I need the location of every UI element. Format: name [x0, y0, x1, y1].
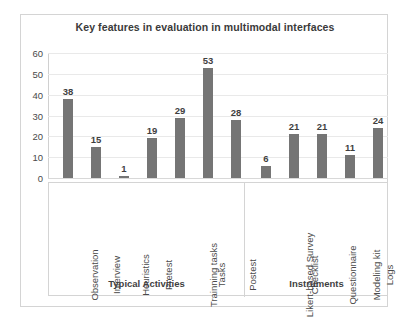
- bar[interactable]: [91, 147, 101, 178]
- gridline: [48, 178, 388, 179]
- group-caption-instruments: Instruments: [245, 278, 388, 289]
- y-axis-tick-label: 40: [32, 89, 43, 100]
- gridline: [48, 74, 388, 75]
- bar-value-label: 21: [308, 121, 336, 132]
- category-slot: Postest: [223, 183, 251, 275]
- y-axis-tick-label: 60: [32, 48, 43, 59]
- category-slot: Heuristics: [111, 183, 139, 275]
- bar-value-label: 29: [166, 105, 194, 116]
- gridline: [48, 116, 388, 117]
- category-slot: Checklist: [281, 183, 309, 275]
- bar[interactable]: [147, 138, 157, 178]
- category-slot: Pretest: [139, 183, 167, 275]
- chart-title: Key features in evaluation in multimodal…: [21, 21, 389, 33]
- category-slot: Modeling kit: [337, 183, 365, 275]
- category-slot: Likert-based Survey: [253, 183, 281, 275]
- category-slot: Trainning tasks: [167, 183, 195, 275]
- bar-value-label: 28: [222, 107, 250, 118]
- bar[interactable]: [345, 155, 355, 178]
- bar[interactable]: [317, 134, 327, 178]
- group-caption-typical-activities: Typical Activities: [49, 278, 244, 289]
- bar-value-label: 53: [194, 55, 222, 66]
- bar[interactable]: [119, 176, 129, 178]
- bar[interactable]: [63, 99, 73, 178]
- bar-value-label: 1: [110, 163, 138, 174]
- y-axis-tick-label: 50: [32, 68, 43, 79]
- plot-area: 0102030405060 3815119295328621211124: [48, 53, 388, 178]
- category-slot: Interview: [83, 183, 111, 275]
- bar[interactable]: [231, 120, 241, 178]
- y-axis-tick-label: 10: [32, 152, 43, 163]
- bar-value-label: 19: [138, 125, 166, 136]
- bar-value-label: 6: [252, 153, 280, 164]
- category-slot: Logs: [365, 183, 393, 275]
- bar[interactable]: [261, 166, 271, 179]
- bar-value-label: 11: [336, 142, 364, 153]
- bar-value-label: 24: [364, 115, 392, 126]
- y-axis-tick-label: 0: [38, 173, 43, 184]
- bar-value-label: 38: [54, 86, 82, 97]
- gridline: [48, 95, 388, 96]
- bar[interactable]: [289, 134, 299, 178]
- category-slot: Observation: [55, 183, 83, 275]
- y-axis-tick-label: 30: [32, 110, 43, 121]
- bar-value-label: 15: [82, 134, 110, 145]
- category-axis-box: ObservationInterviewHeuristicsPretestTra…: [48, 182, 388, 296]
- chart-container: Key features in evaluation in multimodal…: [20, 14, 388, 307]
- bar[interactable]: [373, 128, 383, 178]
- category-slot: Tasks: [195, 183, 223, 275]
- category-slot: Questionnaire: [309, 183, 337, 275]
- bar-value-label: 21: [280, 121, 308, 132]
- y-axis-tick-label: 20: [32, 131, 43, 142]
- bar[interactable]: [175, 118, 185, 178]
- bar[interactable]: [203, 68, 213, 178]
